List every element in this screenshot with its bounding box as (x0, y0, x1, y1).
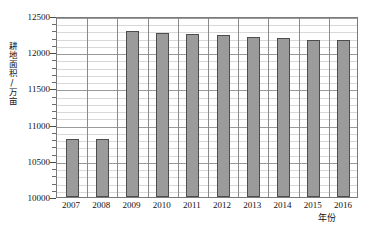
bar-chart: 耕地面积/万亩 100001050011000115001200012500 2… (0, 0, 370, 250)
bar[interactable] (307, 40, 320, 197)
major-gridline (57, 18, 357, 19)
minor-gridline (57, 25, 357, 26)
y-axis-tick-labels: 100001050011000115001200012500 (17, 17, 53, 198)
x-axis-tick-label: 2013 (243, 200, 261, 211)
category-separator (148, 18, 149, 197)
y-axis-title: 耕地面积/万亩 (3, 42, 17, 106)
bar[interactable] (277, 38, 290, 197)
bar[interactable] (337, 40, 350, 197)
category-separator (178, 18, 179, 197)
bar[interactable] (186, 34, 199, 197)
category-separator (299, 18, 300, 197)
minor-gridline (57, 32, 357, 33)
category-separator (87, 18, 88, 197)
x-axis-tick-label: 2008 (92, 200, 110, 211)
x-axis-tick-label: 2010 (153, 200, 171, 211)
category-separator (208, 18, 209, 197)
category-separator (238, 18, 239, 197)
plot-area (56, 17, 358, 198)
bar[interactable] (156, 33, 169, 197)
bar[interactable] (66, 139, 79, 197)
category-separator (268, 18, 269, 197)
x-axis-tick-label: 2015 (304, 200, 322, 211)
x-axis-tick-label: 2012 (213, 200, 231, 211)
category-separator (117, 18, 118, 197)
bar[interactable] (247, 37, 260, 197)
category-separator (329, 18, 330, 197)
x-axis-tick-label: 2014 (274, 200, 292, 211)
y-axis-tick-label: 11000 (28, 121, 50, 130)
y-axis-tick-label: 11500 (28, 85, 50, 94)
y-axis-tick-label: 12000 (28, 49, 51, 58)
bar[interactable] (96, 139, 109, 197)
y-axis-tick-mark (50, 198, 56, 199)
x-axis-tick-label: 2009 (123, 200, 141, 211)
x-axis-tick-labels: 2007200820092010201120122013201420152016 (56, 200, 358, 214)
x-axis-tick-label: 2016 (334, 200, 352, 211)
bar[interactable] (126, 31, 139, 197)
x-axis-tick-label: 2007 (62, 200, 80, 211)
bar[interactable] (217, 35, 230, 197)
x-axis-title: 年份 (318, 213, 336, 224)
y-axis-tick-label: 10500 (28, 157, 51, 166)
x-axis-tick-label: 2011 (183, 200, 201, 211)
y-axis-tick-label: 10000 (28, 194, 51, 203)
y-axis-tick-label: 12500 (28, 13, 51, 22)
